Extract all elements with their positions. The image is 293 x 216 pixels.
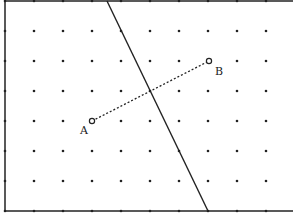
point-label-a: A: [79, 124, 89, 137]
grid-dot: [149, 30, 152, 33]
grid-dot: [62, 120, 65, 123]
grid-dot: [265, 120, 268, 123]
grid-dot: [91, 90, 94, 93]
grid-dot: [265, 180, 268, 183]
grid-dot: [33, 120, 36, 123]
grid-dot: [178, 120, 181, 123]
grid-dot: [236, 90, 239, 93]
grid-dot: [207, 120, 210, 123]
grid-dot: [62, 150, 65, 153]
grid-dot: [236, 180, 239, 183]
grid-dot: [62, 90, 65, 93]
grid-dot: [207, 90, 210, 93]
grid-dots: [4, 0, 268, 212]
grid-dot: [207, 30, 210, 33]
grid-dot: [91, 30, 94, 33]
dot-grid-diagram: AB: [0, 0, 293, 216]
grid-dot: [62, 180, 65, 183]
grid-dot: [265, 150, 268, 153]
grid-dot: [149, 180, 152, 183]
grid-dot: [236, 30, 239, 33]
point-b: [206, 58, 211, 63]
grid-dot: [236, 60, 239, 63]
grid-dot: [120, 150, 123, 153]
points: AB: [79, 58, 223, 137]
grid-dot: [91, 60, 94, 63]
grid-dot: [33, 90, 36, 93]
grid-dot: [91, 180, 94, 183]
grid-dot: [149, 150, 152, 153]
grid-dot: [178, 30, 181, 33]
grid-dot: [207, 180, 210, 183]
grid-dot: [120, 180, 123, 183]
grid-dot: [62, 60, 65, 63]
grid-dot: [62, 30, 65, 33]
grid-dot: [149, 60, 152, 63]
frame-border: [5, 1, 293, 211]
point-label-b: B: [215, 65, 223, 78]
grid-dot: [236, 120, 239, 123]
grid-dot: [265, 90, 268, 93]
grid-dot: [91, 150, 94, 153]
grid-dot: [120, 120, 123, 123]
grid-dot: [33, 60, 36, 63]
grid-dot: [120, 60, 123, 63]
grid-dot: [149, 120, 152, 123]
grid-dot: [207, 150, 210, 153]
segment-ab: [92, 61, 209, 121]
grid-dot: [178, 60, 181, 63]
grid-dot: [236, 150, 239, 153]
grid-dot: [33, 150, 36, 153]
grid-dot: [33, 180, 36, 183]
grid-dot: [265, 30, 268, 33]
grid-dot: [120, 90, 123, 93]
grid-dot: [178, 180, 181, 183]
grid-dot: [178, 90, 181, 93]
grid-dot: [265, 60, 268, 63]
grid-dot: [33, 30, 36, 33]
point-a: [89, 118, 94, 123]
